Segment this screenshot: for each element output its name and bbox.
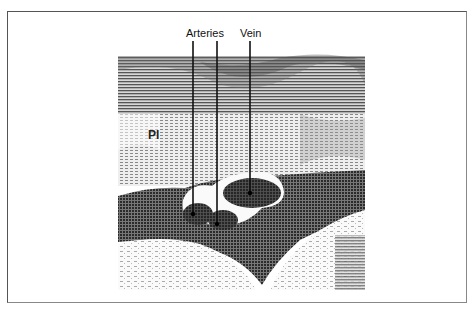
upper-tissue-region: [118, 54, 365, 114]
arteries-label: Arteries: [186, 27, 224, 39]
pl-label: Pl: [148, 128, 159, 142]
vein-label: Vein: [240, 27, 261, 39]
ultrasound-image: [0, 0, 476, 309]
artery-right: [208, 210, 238, 230]
